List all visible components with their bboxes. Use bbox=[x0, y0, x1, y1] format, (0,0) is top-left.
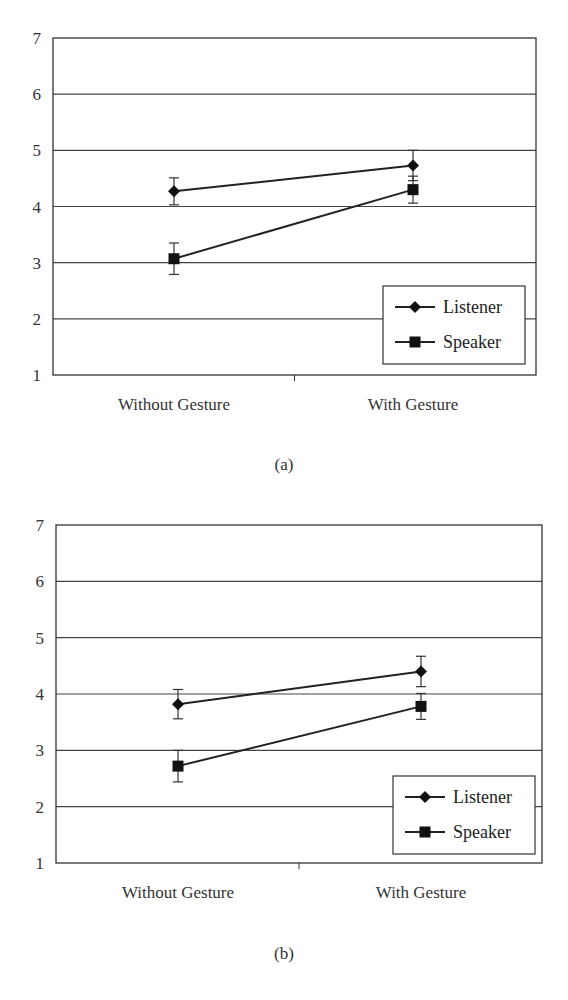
y-tick-label: 6 bbox=[33, 85, 42, 104]
y-tick-label: 1 bbox=[36, 854, 45, 873]
panel-label-b: (b) bbox=[0, 944, 568, 964]
x-category-label: With Gesture bbox=[368, 395, 458, 414]
x-category-label: With Gesture bbox=[376, 883, 466, 902]
y-tick-label: 4 bbox=[36, 685, 45, 704]
x-category-label: Without Gesture bbox=[118, 395, 230, 414]
legend-square-icon bbox=[410, 337, 421, 348]
legend-square-icon bbox=[420, 827, 431, 838]
square-marker bbox=[408, 184, 419, 195]
diamond-marker bbox=[168, 185, 180, 197]
y-tick-label: 5 bbox=[33, 141, 42, 160]
diamond-marker bbox=[172, 698, 184, 710]
diamond-marker bbox=[415, 665, 427, 677]
chart-a: 1234567Without GestureWith GestureListen… bbox=[0, 0, 568, 430]
legend-label: Speaker bbox=[443, 332, 501, 352]
y-tick-label: 4 bbox=[33, 198, 42, 217]
series-line-listener bbox=[174, 165, 413, 191]
y-tick-label: 6 bbox=[36, 572, 45, 591]
legend-label: Speaker bbox=[453, 822, 511, 842]
square-marker bbox=[173, 761, 184, 772]
series-line-listener bbox=[178, 671, 421, 704]
panel-label-a: (a) bbox=[0, 455, 568, 475]
legend-label: Listener bbox=[453, 787, 512, 807]
y-tick-label: 3 bbox=[33, 254, 42, 273]
square-marker bbox=[169, 253, 180, 264]
series-line-speaker bbox=[174, 190, 413, 259]
y-tick-label: 2 bbox=[33, 310, 42, 329]
y-tick-label: 5 bbox=[36, 629, 45, 648]
y-tick-label: 7 bbox=[36, 516, 45, 535]
legend-label: Listener bbox=[443, 297, 502, 317]
y-tick-label: 3 bbox=[36, 741, 45, 760]
x-category-label: Without Gesture bbox=[122, 883, 234, 902]
chart-b: 1234567Without GestureWith GestureListen… bbox=[0, 488, 568, 918]
y-tick-label: 1 bbox=[33, 366, 42, 385]
y-tick-label: 7 bbox=[33, 29, 42, 48]
diamond-marker bbox=[407, 159, 419, 171]
series-line-speaker bbox=[178, 706, 421, 766]
square-marker bbox=[416, 701, 427, 712]
y-tick-label: 2 bbox=[36, 798, 45, 817]
